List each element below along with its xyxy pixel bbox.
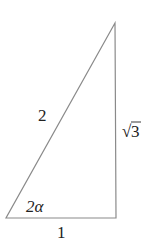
base-label: 1 bbox=[57, 223, 66, 242]
hypotenuse-label: 2 bbox=[38, 106, 47, 125]
right-triangle bbox=[6, 23, 116, 218]
vertical-side-label: 3 bbox=[131, 122, 140, 141]
triangle-diagram: 2 √ 3 2α 1 bbox=[0, 0, 152, 250]
angle-label: 2α bbox=[26, 197, 45, 216]
